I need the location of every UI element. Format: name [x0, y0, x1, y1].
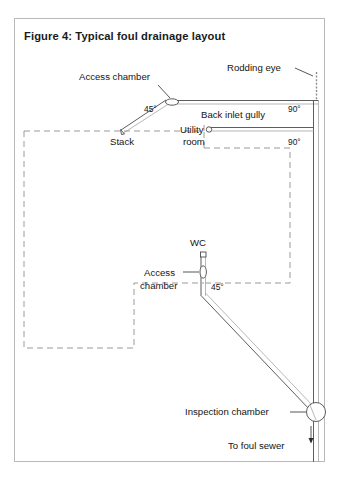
drainage-layout-diagram: Access chamber Rodding eye Back inlet gu… — [0, 0, 340, 480]
figure-container: Figure 4: Typical foul drainage layout — [0, 0, 340, 480]
rodding-eye-leader — [295, 68, 313, 76]
label-angle-90-lower: 90° — [288, 137, 301, 147]
label-back-inlet-gully: Back inlet gully — [201, 109, 265, 120]
main-drain-diagonal-edge-a — [202, 296, 311, 410]
label-inspection-chamber: Inspection chamber — [185, 406, 270, 417]
wc-cap-fitting — [201, 252, 207, 257]
label-rodding-eye: Rodding eye — [227, 62, 281, 73]
label-wc: WC — [190, 237, 206, 248]
label-to-foul-sewer: To foul sewer — [228, 440, 285, 451]
main-dwelling-outline — [24, 131, 204, 348]
label-utility-room-line2: room — [183, 136, 205, 147]
stack-terminal — [121, 130, 125, 135]
back-inlet-gully-fitting — [206, 127, 211, 132]
label-access-chamber-mid-line1: Access — [144, 267, 175, 278]
label-angle-45-top: 45° — [144, 104, 157, 114]
utility-room-outline — [204, 148, 290, 283]
label-angle-90-upper: 90° — [288, 104, 301, 114]
label-angle-45-mid: 45° — [211, 282, 224, 292]
main-drain-diagonal-edge-b — [206, 293, 315, 407]
label-stack: Stack — [110, 136, 134, 147]
access-chamber-mid-fitting — [200, 266, 206, 278]
label-access-chamber-top: Access chamber — [79, 71, 151, 82]
inspection-chamber-fitting — [307, 403, 326, 422]
foul-sewer-arrow-head — [309, 438, 314, 444]
label-utility-room-line1: Utility — [180, 124, 204, 135]
access-chamber-top-fitting — [166, 99, 179, 105]
access-chamber-top-leader — [158, 85, 170, 98]
label-access-chamber-mid-line2: chamber — [140, 280, 178, 291]
